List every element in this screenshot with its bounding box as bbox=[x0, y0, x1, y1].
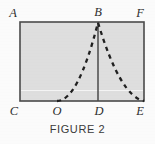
vertex-label-a: A bbox=[9, 7, 17, 20]
vertex-label-d: D bbox=[94, 105, 103, 118]
figure-caption: FIGURE 2 bbox=[0, 123, 155, 135]
vertex-label-b: B bbox=[94, 6, 102, 19]
vertex-label-c: C bbox=[10, 105, 18, 118]
vertex-label-o: O bbox=[52, 105, 61, 118]
vertex-label-f: F bbox=[136, 7, 144, 20]
vertex-label-e: E bbox=[136, 105, 144, 118]
figure-container: A B F C O D E FIGURE 2 bbox=[0, 0, 155, 144]
rectangle-ACEF bbox=[20, 22, 144, 101]
